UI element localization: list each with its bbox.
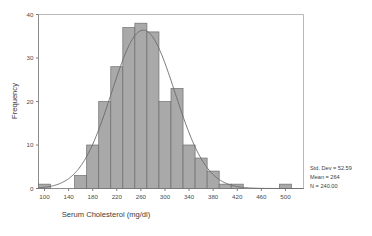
histogram-bar (159, 102, 171, 189)
x-tick-label: 100 (39, 193, 50, 200)
histogram-bar (147, 32, 159, 189)
histogram-bar (135, 23, 147, 188)
x-tick-label: 180 (88, 193, 99, 200)
x-tick-label: 460 (256, 193, 267, 200)
y-tick-label: 40 (27, 11, 34, 18)
x-tick-label: 220 (112, 193, 123, 200)
histogram-bar (171, 88, 183, 188)
y-tick-label: 30 (27, 54, 34, 61)
histogram-bar (99, 102, 111, 189)
n-label: N = 240.00 (310, 183, 338, 189)
histogram-bar (75, 175, 87, 188)
x-tick-label: 140 (63, 193, 74, 200)
histogram-bar (87, 145, 99, 189)
x-tick-label: 380 (208, 193, 219, 200)
x-tick-label: 420 (232, 193, 243, 200)
histogram-bar (279, 184, 291, 188)
y-tick-label: 20 (27, 98, 34, 105)
x-tick-label: 500 (280, 193, 291, 200)
histogram-bar (207, 171, 219, 188)
histogram-chart: 010203040 100140180220260300340380420460… (0, 0, 372, 236)
chart-background (0, 0, 372, 236)
mean-label: Mean = 264 (310, 174, 340, 180)
y-tick-label: 0 (30, 185, 34, 192)
x-axis-title: Serum Cholesterol (mg/dl) (62, 210, 151, 219)
std-dev-label: Std. Dev = 52.59 (310, 165, 352, 171)
chart-canvas: 010203040 100140180220260300340380420460… (0, 0, 372, 236)
y-tick-label: 10 (27, 141, 34, 148)
histogram-bar (183, 145, 195, 189)
histogram-bar (195, 158, 207, 188)
x-tick-label: 300 (160, 193, 171, 200)
x-tick-label: 260 (136, 193, 147, 200)
y-axis-title: Frequency (10, 83, 19, 119)
histogram-bar (111, 67, 123, 189)
x-tick-label: 340 (184, 193, 195, 200)
histogram-bar (123, 28, 135, 189)
